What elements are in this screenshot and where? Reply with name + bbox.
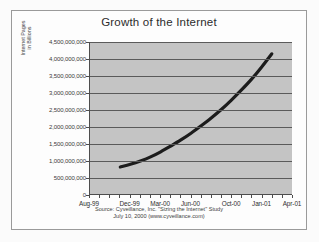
x-axis-tick-mark <box>170 195 171 198</box>
gridline <box>90 59 292 60</box>
y-axis-tick-label: 3,000,000,000 <box>49 90 86 96</box>
gridline <box>90 127 292 128</box>
x-axis-tick-mark <box>211 195 212 198</box>
y-axis-tick-label: 3,500,000,000 <box>49 73 86 79</box>
x-axis-tick-mark <box>292 195 293 198</box>
x-axis-tick-mark <box>89 195 90 198</box>
x-axis-tick-mark <box>191 195 192 198</box>
chart-frame: Growth of the Internet Internet Pages in… <box>11 10 307 230</box>
y-axis-tick-label: 1,000,000,000 <box>49 158 86 164</box>
y-axis-title: Internet Pages in Billions <box>20 3 32 73</box>
x-axis-tick-mark <box>160 195 161 198</box>
scanned-page: Growth of the Internet Internet Pages in… <box>0 0 319 242</box>
gridline <box>90 76 292 77</box>
x-axis-tick-mark <box>109 195 110 198</box>
y-axis-tick-label: 1,500,000,000 <box>49 141 86 147</box>
growth-curve <box>90 42 292 194</box>
x-axis-tick-mark <box>140 195 141 198</box>
x-axis-tick-mark <box>272 195 273 198</box>
x-axis-tick-mark <box>262 195 263 198</box>
x-axis-tick-mark <box>231 195 232 198</box>
x-axis-tick-mark <box>150 195 151 198</box>
gridline <box>90 93 292 94</box>
gridline <box>90 110 292 111</box>
source-note-line-2: July 10, 2000 (www.cyveillance.com) <box>12 213 306 220</box>
chart-title: Growth of the Internet <box>12 16 306 28</box>
gridline <box>90 42 292 43</box>
x-axis-tick-mark <box>282 195 283 198</box>
y-axis-title-line-2: in Billions <box>26 3 32 73</box>
gridline <box>90 161 292 162</box>
x-axis-tick-mark <box>221 195 222 198</box>
gridline <box>90 178 292 179</box>
y-axis-tick-label: 2,000,000,000 <box>49 124 86 130</box>
x-axis-tick-mark <box>241 195 242 198</box>
gridline <box>90 144 292 145</box>
y-axis-tick-label: 2,500,000,000 <box>49 107 86 113</box>
x-axis-tick-mark <box>180 195 181 198</box>
source-note: Source: Cyveillance, Inc. "Sizing the In… <box>12 206 306 220</box>
x-axis-tick-mark <box>201 195 202 198</box>
y-axis-tick-label: 4,000,000,000 <box>49 56 86 62</box>
x-axis-tick-marks <box>89 195 292 199</box>
x-axis-tick-mark <box>130 195 131 198</box>
plot-area <box>89 42 292 195</box>
x-axis-tick-mark <box>251 195 252 198</box>
y-axis-tick-label: 4,500,000,000 <box>49 39 86 45</box>
scan-artifact-text <box>8 232 308 240</box>
x-axis-tick-mark <box>99 195 100 198</box>
source-note-line-1: Source: Cyveillance, Inc. "Sizing the In… <box>12 206 306 213</box>
x-axis-tick-mark <box>119 195 120 198</box>
y-axis-tick-label: 500,000,000 <box>54 175 86 181</box>
y-axis-tick-labels: 4,500,000,0004,000,000,0003,500,000,0003… <box>34 42 88 195</box>
